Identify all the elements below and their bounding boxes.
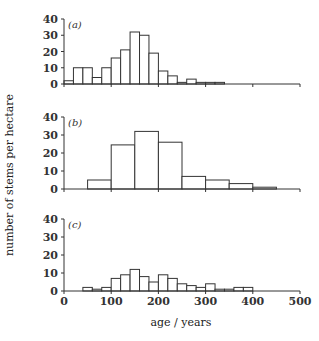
y-tick-label: 40 xyxy=(43,13,59,26)
histogram-bar xyxy=(234,287,243,291)
histogram-bar xyxy=(168,278,177,291)
x-tick-label: 500 xyxy=(289,295,312,308)
x-axis-title: age / years xyxy=(151,316,212,329)
histogram-bar xyxy=(158,275,167,291)
histogram-bar xyxy=(111,145,135,189)
y-tick-label: 30 xyxy=(43,231,59,244)
histogram-bar xyxy=(187,79,196,84)
x-tick-label: 0 xyxy=(60,295,68,308)
histogram-bar xyxy=(140,277,149,291)
y-tick-label: 40 xyxy=(43,213,59,226)
y-tick-label: 20 xyxy=(43,147,59,160)
histogram-bar xyxy=(206,180,230,189)
histogram-bar xyxy=(196,287,205,291)
y-tick-label: 20 xyxy=(43,249,59,262)
panel-label: (b) xyxy=(68,117,82,128)
histogram-bar xyxy=(229,184,253,189)
histogram-bar xyxy=(243,287,252,291)
histogram-bar xyxy=(102,68,111,84)
histogram-bar xyxy=(83,68,92,84)
histogram-figure: 010203040(a)010203040(b)010203040(c) 010… xyxy=(0,0,319,341)
x-tick-label: 300 xyxy=(194,295,217,308)
y-tick-label: 10 xyxy=(43,165,59,178)
histogram-bar xyxy=(130,32,139,84)
y-tick-label: 30 xyxy=(43,29,59,42)
y-tick-label: 10 xyxy=(43,62,59,75)
y-tick-label: 0 xyxy=(50,285,58,298)
y-axis-title: number of stems per hectare xyxy=(3,94,16,256)
histogram-bar xyxy=(187,286,196,291)
histogram-bar xyxy=(121,275,130,291)
y-tick-label: 20 xyxy=(43,46,59,59)
histogram-bar xyxy=(111,278,120,291)
x-tick-label: 400 xyxy=(241,295,264,308)
panel-b: 010203040(b) xyxy=(43,111,300,196)
histogram-bar xyxy=(92,78,101,85)
x-tick-label: 100 xyxy=(100,295,123,308)
histogram-bar xyxy=(177,284,186,291)
histogram-bar xyxy=(168,76,177,84)
histogram-bar xyxy=(88,180,112,189)
histogram-bar xyxy=(182,176,206,189)
histogram-bar xyxy=(149,53,158,84)
y-tick-label: 10 xyxy=(43,267,59,280)
panel-label: (c) xyxy=(68,219,82,230)
y-tick-label: 30 xyxy=(43,129,59,142)
y-tick-label: 40 xyxy=(43,111,59,124)
y-tick-label: 0 xyxy=(50,183,58,196)
histogram-bar xyxy=(102,287,111,291)
histogram-bar xyxy=(111,58,120,84)
x-axis-tick-labels: 0100200300400500 xyxy=(60,295,312,308)
panel-label: (a) xyxy=(68,19,82,30)
histogram-bar xyxy=(121,50,130,84)
histogram-bar xyxy=(130,269,139,291)
histogram-bar xyxy=(206,284,215,291)
histogram-bar xyxy=(158,71,167,84)
panel-c: 010203040(c) xyxy=(43,213,300,298)
panels: 010203040(a)010203040(b)010203040(c) xyxy=(43,13,300,298)
histogram-bar xyxy=(135,131,159,189)
y-tick-label: 0 xyxy=(50,78,58,91)
x-tick-label: 200 xyxy=(147,295,170,308)
histogram-bar xyxy=(83,287,92,291)
histogram-bar xyxy=(73,68,82,84)
histogram-bar xyxy=(149,282,158,291)
panel-a: 010203040(a) xyxy=(43,13,300,91)
histogram-bar xyxy=(140,35,149,84)
histogram-bar xyxy=(158,142,182,189)
